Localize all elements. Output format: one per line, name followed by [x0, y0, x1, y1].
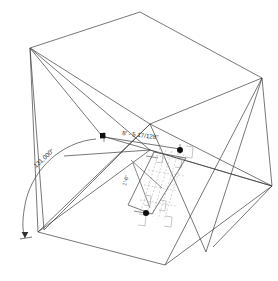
left-warp-line-b — [30, 48, 102, 136]
top-face-outline — [30, 12, 262, 124]
bracket-bottom-left — [138, 214, 146, 226]
bracket-top-right — [185, 146, 193, 158]
right-warp-line-a — [206, 78, 262, 252]
bracket-bottom-right — [164, 216, 172, 227]
left-warp-line-d — [38, 124, 150, 232]
right-warp-line-e — [213, 186, 272, 247]
angle-extension-tick — [20, 237, 32, 239]
right-edge-vertical — [262, 78, 272, 186]
linear-dimension-line — [104, 137, 180, 149]
box-top-face — [30, 12, 262, 124]
right-warp-line-d — [150, 124, 206, 252]
secondary-dimension-label: 1'-6" — [121, 174, 130, 186]
round-node-icon — [143, 210, 149, 216]
box-right-face — [150, 78, 272, 265]
leader-diagonal — [131, 160, 162, 188]
wireframe-svg[interactable]: 131.000° 8' - 5 17/128" 1'-6" — [0, 0, 278, 281]
detail-opening-frame — [128, 152, 186, 214]
right-warp-line-b — [165, 78, 262, 265]
mid-band-right — [150, 150, 272, 186]
square-node-icon — [100, 133, 105, 138]
framing-line-5 — [164, 154, 184, 220]
left-warp-line-e — [44, 124, 150, 230]
drawing-canvas[interactable]: 131.000° 8' - 5 17/128" 1'-6" — [0, 0, 278, 281]
bracket-lower-mid — [159, 200, 166, 211]
opening-outline — [128, 152, 186, 214]
arrow-terminator-icon — [22, 232, 29, 238]
mid-band-left — [64, 150, 150, 156]
inset-detail[interactable] — [128, 146, 193, 227]
round-node-icon — [177, 147, 183, 153]
